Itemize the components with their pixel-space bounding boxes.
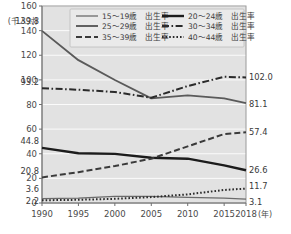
series-start-value-label: 44.8 — [21, 136, 39, 146]
chart-legend: 15～19歳 出生率20～24歳 出生率25～29歳 出生率30～34歳 出生率… — [70, 9, 255, 47]
y-tick-label: 140 — [21, 26, 37, 36]
y-axis-tick-labels: 020406080100120140160 — [21, 1, 37, 208]
y-tick-label: 120 — [21, 50, 37, 60]
series-end-value-label: 102.0 — [249, 72, 273, 82]
series-start-value-label: 20.8 — [21, 166, 39, 176]
legend-label: 30～34歳 出生率 — [188, 21, 255, 31]
legend-items: 15～19歳 出生率20～24歳 出生率25～29歳 出生率30～34歳 出生率… — [76, 11, 255, 42]
series-start-value-label: 2.2 — [26, 196, 39, 206]
legend-label: 40～44歳 出生率 — [188, 32, 255, 42]
series-end-value-label: 57.4 — [249, 127, 267, 137]
x-tick-label: 1995 — [68, 209, 90, 219]
x-tick-label: 2005 — [140, 209, 162, 219]
birth-rate-line-chart: 020406080100120140160 199019952000200520… — [0, 0, 291, 234]
series-end-value-label: 3.1 — [249, 197, 262, 207]
x-axis-unit-label: (年) — [258, 209, 272, 219]
x-tick-label: 2018 — [235, 209, 257, 219]
series-start-value-label: 93.2 — [21, 77, 39, 87]
x-axis-tick-labels: 1990199520002005201020152018 — [31, 209, 257, 219]
chart-canvas: 020406080100120140160 199019952000200520… — [0, 0, 291, 234]
x-tick-label: 2015 — [213, 209, 235, 219]
legend-label: 15～19歳 出生率 — [102, 11, 169, 21]
series-end-value-label: 26.6 — [249, 165, 267, 175]
x-tick-label: 2010 — [177, 209, 199, 219]
series-start-value-label: 139.8 — [15, 16, 39, 26]
y-tick-label: 40 — [26, 149, 37, 159]
y-tick-label: 160 — [21, 1, 37, 11]
series-start-value-label: 3.6 — [26, 184, 39, 194]
legend-label: 35～39歳 出生率 — [102, 32, 169, 42]
series-end-value-label: 81.1 — [249, 99, 267, 109]
x-tick-label: 2000 — [104, 209, 126, 219]
x-tick-label: 1990 — [31, 209, 53, 219]
legend-label: 25～29歳 出生率 — [102, 21, 169, 31]
legend-label: 20～24歳 出生率 — [188, 11, 255, 21]
y-tick-label: 60 — [26, 124, 37, 134]
series-end-value-label: 11.7 — [249, 181, 267, 191]
y-tick-label: 80 — [26, 100, 37, 110]
